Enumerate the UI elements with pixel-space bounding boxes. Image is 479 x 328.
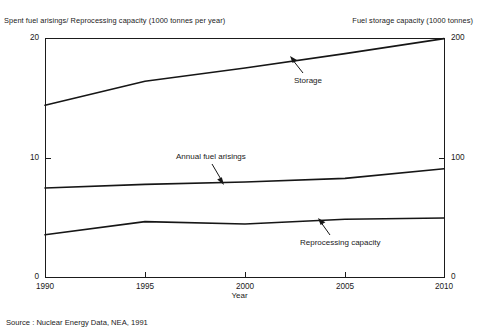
annotation-annual-fuel-arisings: Annual fuel arisings bbox=[176, 152, 246, 161]
x-axis-title: Year bbox=[0, 291, 479, 300]
series-line-reprocessing-capacity bbox=[45, 218, 444, 235]
x-tick-label-1990: 1990 bbox=[25, 282, 65, 291]
y-right-tick-label-100: 100 bbox=[451, 153, 477, 162]
left-axis-caption: Spent fuel arisings/ Reprocessing capaci… bbox=[4, 16, 225, 25]
source-note: Source : Nuclear Energy Data, NEA, 1991 bbox=[6, 318, 148, 327]
x-tick-label-2005: 2005 bbox=[325, 282, 365, 291]
annotation-reprocessing-capacity: Reprocessing capacity bbox=[300, 238, 380, 247]
x-tick-label-2010: 2010 bbox=[424, 282, 464, 291]
series-line-storage bbox=[45, 39, 444, 106]
y-right-tick-label-200: 200 bbox=[451, 33, 477, 42]
chart-figure: Spent fuel arisings/ Reprocessing capaci… bbox=[0, 0, 479, 328]
y-right-tick-label-0: 0 bbox=[451, 272, 477, 281]
series-line-annual-fuel-arisings bbox=[45, 169, 444, 188]
right-axis-caption: Fuel storage capacity (1000 tonnes) bbox=[352, 16, 473, 25]
y-left-tick-label-20: 20 bbox=[13, 33, 39, 42]
y-left-tick-label-10: 10 bbox=[13, 153, 39, 162]
annotation-storage: Storage bbox=[294, 76, 322, 85]
y-left-tick-label-0: 0 bbox=[13, 272, 39, 281]
x-tick-label-1995: 1995 bbox=[125, 282, 165, 291]
x-tick-label-2000: 2000 bbox=[225, 282, 265, 291]
